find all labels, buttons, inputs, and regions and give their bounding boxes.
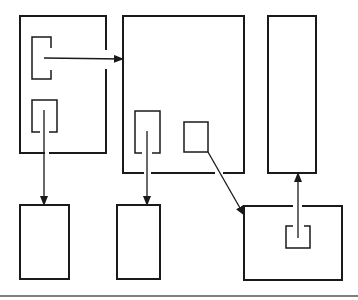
outer-right-tall-box [268,16,316,173]
arrow-square-to-bottom-right [208,152,244,215]
bottom-right-box [244,206,342,280]
arrow-left-to-middle [44,58,123,59]
bottom-middle-box [117,205,160,279]
diagram-canvas [0,0,358,300]
bottom-left-box [20,205,69,279]
middle-small-square [184,122,208,152]
